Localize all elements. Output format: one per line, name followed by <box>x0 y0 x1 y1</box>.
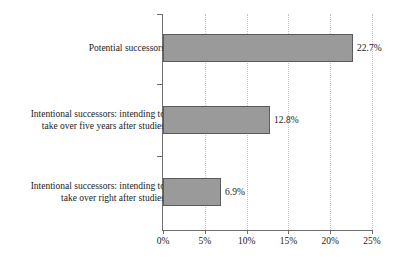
bar-chart-figure: Potential successors 22.7% Intentional s… <box>0 0 397 260</box>
bar-intentional-five-years <box>163 106 270 134</box>
bar-value-potential-successors: 22.7% <box>357 44 382 54</box>
x-axis-label-20: 20% <box>321 237 338 247</box>
x-axis-tick-10 <box>247 230 248 234</box>
x-axis-tick-15 <box>288 230 289 234</box>
x-axis-tick-20 <box>330 230 331 234</box>
x-axis-label-10: 10% <box>238 237 255 247</box>
bar-value-intentional-five-years: 12.8% <box>274 116 299 126</box>
x-axis-label-5: 5% <box>198 237 211 247</box>
y-axis-tick-top <box>157 14 163 15</box>
bar-value-intentional-right-after: 6.9% <box>225 188 245 198</box>
y-axis-tick-2 <box>157 156 163 157</box>
x-axis-tick-0 <box>163 230 164 234</box>
category-label-intentional-right-after: Intentional successors: intending to tak… <box>5 180 165 204</box>
x-axis-tick-25 <box>372 230 373 234</box>
x-axis-label-0: 0% <box>157 237 170 247</box>
x-axis-line <box>162 230 373 231</box>
bar-intentional-right-after <box>163 178 221 206</box>
x-axis-label-25: 25% <box>363 237 380 247</box>
x-axis-tick-5 <box>205 230 206 234</box>
bar-potential-successors <box>163 34 353 62</box>
category-label-potential-successors: Potential successors <box>5 42 165 54</box>
x-axis-label-15: 15% <box>280 237 297 247</box>
y-axis-tick-1 <box>157 84 163 85</box>
category-label-intentional-five-years: Intentional successors: intending to tak… <box>5 108 165 132</box>
